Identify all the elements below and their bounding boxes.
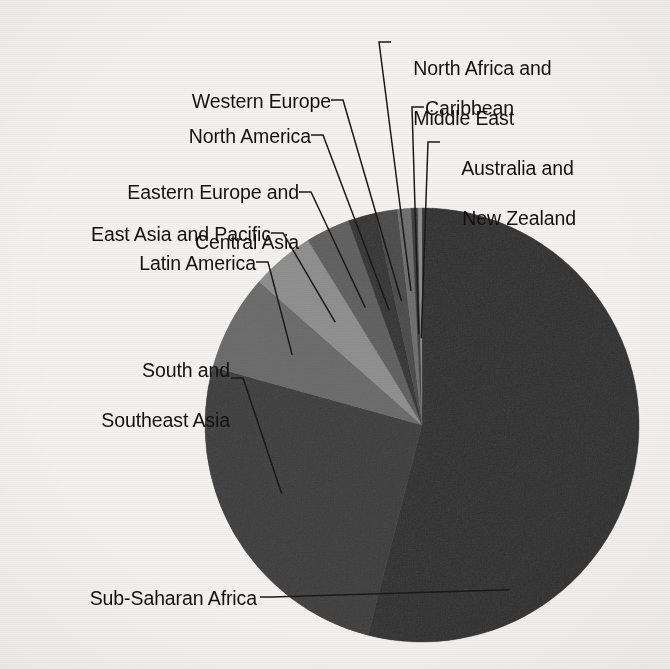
label-south-southeast-line1: South and <box>142 359 230 381</box>
label-south-southeast-line2: Southeast Asia <box>101 409 230 431</box>
label-latin-america: Latin America <box>0 251 256 276</box>
label-north-africa-line1: North Africa and <box>413 57 551 79</box>
label-east-asia-and-pacific: East Asia and Pacific <box>0 222 271 247</box>
label-sub-saharan-africa: Sub-Saharan Africa <box>0 586 257 611</box>
label-north-america: North America <box>51 124 311 149</box>
label-caribbean: Caribbean <box>425 96 514 121</box>
label-western-europe: Western Europe <box>71 89 331 114</box>
label-australia-line1: Australia and <box>461 157 574 179</box>
label-australia-line2: New Zealand <box>462 207 576 229</box>
label-south-and-southeast-asia: South and Southeast Asia <box>0 333 230 458</box>
pie-chart-figure: North Africa and Middle East Caribbean A… <box>0 0 670 669</box>
label-eastern-europe-line1: Eastern Europe and <box>127 181 299 203</box>
label-australia-and-new-zealand: Australia and New Zealand <box>441 131 576 256</box>
